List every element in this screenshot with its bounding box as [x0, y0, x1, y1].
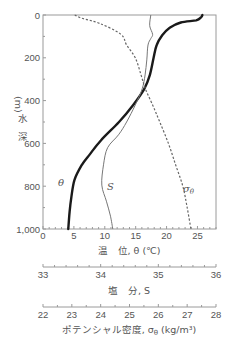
density-tick-label: 25 [124, 309, 135, 320]
density-tick-label: 26 [153, 309, 164, 320]
x-axis-density: 22232425262728 [38, 304, 222, 320]
theta-tick-label: 20 [161, 230, 172, 241]
y-title-unit: (m) [13, 96, 24, 113]
chart-figure: 02004006008001,000 0510152025 33343536 2… [0, 0, 236, 349]
theta-tick-label: 25 [192, 230, 203, 241]
x-title-salinity: 塩 分, S [108, 285, 150, 296]
x-title-theta: 温 位, θ (℃) [98, 245, 161, 256]
y-tick-label: 400 [24, 95, 40, 106]
salinity-tick-label: 35 [153, 269, 164, 280]
profile-curves [68, 15, 202, 229]
density-curve [75, 15, 191, 229]
y-tick-label: 800 [24, 181, 40, 192]
x-axis-salinity: 33343536 [38, 264, 222, 280]
density-tick-label: 23 [67, 309, 78, 320]
theta-curve [68, 15, 202, 229]
y-tick-label: 0 [35, 10, 40, 21]
theta-tick-label: 5 [71, 230, 76, 241]
density-tick-label: 27 [182, 309, 193, 320]
salinity-tick-label: 36 [211, 269, 222, 280]
y-title-char-1: 水 [18, 113, 28, 124]
y-title-char-2: 深 [18, 131, 28, 142]
salinity-curve-label: S [107, 181, 114, 192]
theta-tick-label: 10 [99, 230, 110, 241]
y-tick-label: 1,000 [16, 224, 40, 235]
density-tick-label: 22 [38, 309, 49, 320]
density-tick-label: 24 [95, 309, 106, 320]
theta-tick-label: 15 [130, 230, 141, 241]
density-curve-label: σθ [183, 183, 195, 196]
theta-tick-label: 0 [40, 230, 45, 241]
chart-svg: 02004006008001,000 0510152025 33343536 2… [0, 0, 236, 349]
salinity-tick-label: 33 [38, 269, 49, 280]
salinity-curve [102, 15, 153, 229]
plot-frame [43, 15, 216, 229]
density-tick-label: 28 [211, 309, 222, 320]
salinity-tick-label: 34 [95, 269, 106, 280]
x-axis-theta: 0510152025 [40, 226, 216, 241]
x-title-density: ポテンシャル密度, σθ (kg/m³) [62, 324, 197, 337]
y-tick-label: 200 [24, 52, 40, 63]
theta-curve-label: θ [58, 177, 64, 188]
